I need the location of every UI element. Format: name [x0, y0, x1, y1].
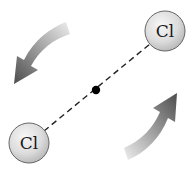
center-of-mass-dot: [92, 86, 100, 94]
cl2-rotation-diagram: Cl Cl: [0, 0, 194, 176]
rotation-arrow-upper-left-icon: [14, 22, 70, 84]
chlorine-atom-bottom: Cl: [9, 123, 49, 163]
chlorine-atom-top: Cl: [145, 11, 185, 51]
rotation-arrow-lower-right-icon: [124, 93, 177, 160]
atom-label-bottom: Cl: [20, 133, 38, 153]
atom-label-top: Cl: [156, 21, 174, 41]
